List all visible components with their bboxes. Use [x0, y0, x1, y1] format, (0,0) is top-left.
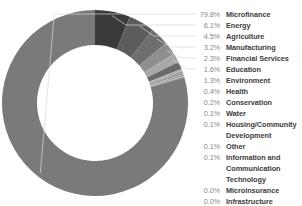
legend-row: 0.4%Health: [188, 86, 302, 97]
legend-label: Other: [220, 141, 302, 152]
legend-label: Microinsurance: [220, 185, 302, 196]
legend-label: Agriculture: [220, 31, 302, 42]
legend-row: 0.1%Water: [188, 108, 302, 119]
legend-row: 1.3%Environment: [188, 75, 302, 86]
legend-label: Conservation: [220, 97, 302, 108]
legend-percent: 0.4%: [188, 86, 220, 97]
legend-row: 79.8%Microfinance: [188, 9, 302, 20]
legend-label: Communication: [220, 163, 302, 174]
legend-label: Housing/Community: [220, 119, 302, 130]
legend-row: 0.0%Microinsurance: [188, 185, 302, 196]
legend-label: Energy: [220, 20, 302, 31]
legend-row: 0.1%Housing/Community: [188, 119, 302, 130]
legend-row: 2.3%Financial Services: [188, 53, 302, 64]
legend-label: Manufacturing: [220, 42, 302, 53]
legend-row: Development: [188, 130, 302, 141]
legend-label: Health: [220, 86, 302, 97]
legend-label: Information and: [220, 152, 302, 163]
legend-percent: 0.0%: [188, 196, 220, 206]
legend-label: Microfinance: [220, 9, 302, 20]
legend-percent: 1.6%: [188, 64, 220, 75]
legend-percent: 2.3%: [188, 53, 220, 64]
donut-chart: 79.8%Microfinance6.1%Energy4.5%Agricultu…: [0, 0, 302, 206]
legend-percent: 0.2%: [188, 97, 220, 108]
legend-percent: 1.3%: [188, 75, 220, 86]
legend-row: 4.5%Agriculture: [188, 31, 302, 42]
legend-percent: 6.1%: [188, 20, 220, 31]
legend-percent: 0.1%: [188, 119, 220, 130]
legend-label: Education: [220, 64, 302, 75]
legend-label: Financial Services: [220, 53, 302, 64]
legend-row: 0.2%Conservation: [188, 97, 302, 108]
legend-percent: 4.5%: [188, 31, 220, 42]
donut-graphic: [0, 0, 192, 206]
legend-row: Communication: [188, 163, 302, 174]
legend-percent: 0.1%: [188, 141, 220, 152]
chart-legend: 79.8%Microfinance6.1%Energy4.5%Agricultu…: [188, 9, 302, 206]
legend-label: Infrastructure: [220, 196, 302, 206]
donut-svg: [0, 0, 192, 206]
legend-label: Development: [220, 130, 302, 141]
legend-row: 0.1%Other: [188, 141, 302, 152]
legend-percent: 3.2%: [188, 42, 220, 53]
donut-slice-group: [2, 10, 188, 196]
legend-row: 3.2%Manufacturing: [188, 42, 302, 53]
legend-percent: 79.8%: [188, 9, 220, 20]
legend-row: 6.1%Energy: [188, 20, 302, 31]
legend-row: 1.6%Education: [188, 64, 302, 75]
legend-row: 0.0%Infrastructure: [188, 196, 302, 206]
legend-percent: 0.1%: [188, 152, 220, 163]
legend-row: Technology: [188, 174, 302, 185]
legend-label: Environment: [220, 75, 302, 86]
legend-row: 0.1%Information and: [188, 152, 302, 163]
legend-percent: 0.1%: [188, 108, 220, 119]
legend-label: Technology: [220, 174, 302, 185]
legend-percent: 0.0%: [188, 185, 220, 196]
legend-label: Water: [220, 108, 302, 119]
